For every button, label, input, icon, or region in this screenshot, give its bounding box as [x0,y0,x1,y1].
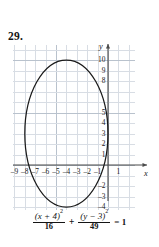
y-tick-label: 2 [102,140,106,147]
fraction-first: (x + 4)2 16 [33,212,65,232]
x-tick-label: –2 [83,168,90,175]
problem-number: 29. [8,30,23,42]
x-axis-label: x [144,170,148,178]
x-tick-label: –5 [52,168,59,175]
x-tick-label: –3 [73,168,80,175]
graph-figure: –9–8–7–6–5–4–3–2–11109854321–2–3–4 x y [0,42,159,210]
fraction-first-numerator-base: (x + 4) [35,211,60,221]
y-axis-label: y [99,43,103,51]
fraction-second-exponent: 2 [105,208,108,214]
ellipse-curve [25,60,108,207]
y-tick-label: 3 [102,130,106,137]
fraction-first-denominator: 16 [43,223,55,232]
fraction-second-denominator: 49 [88,223,100,232]
y-tick-label: 5 [102,109,106,116]
fraction-first-exponent: 2 [60,208,63,214]
fraction-second-numerator-base: (y − 3) [80,211,105,221]
equation-row: (x + 4)2 16 + (y − 3)2 49 = 1 [33,212,126,232]
fraction-first-numerator: (x + 4)2 [33,212,65,222]
x-tick-label: –7 [31,168,38,175]
x-tick-label: 1 [117,168,121,175]
figure-page: 29. –9–8–7–6–5–4–3–2–11109854321–2–3–4 x… [0,0,159,247]
x-tick-label: –8 [21,168,28,175]
y-tick-label: 8 [102,77,106,84]
fraction-second-numerator: (y − 3)2 [78,212,110,222]
x-tick-label: –6 [42,168,49,175]
x-tick-label: –9 [11,168,18,175]
plus-operator: + [68,217,75,227]
y-tick-label: 1 [102,151,106,158]
equation-caption: (x + 4)2 16 + (y − 3)2 49 = 1 [0,211,159,232]
fraction-second: (y − 3)2 49 [78,212,110,232]
graph-plot-svg [0,42,159,210]
x-axis-arrow-icon [143,163,148,167]
y-tick-label: –3 [98,193,105,200]
y-tick-label: 9 [102,67,106,74]
y-axis-arrow-icon [106,44,110,49]
y-tick-label: 4 [102,119,106,126]
equation-tail: = 1 [113,217,126,227]
y-tick-label: –2 [98,182,105,189]
x-tick-label: –1 [94,168,101,175]
x-tick-label: –4 [63,168,70,175]
y-tick-label: 10 [98,56,105,63]
